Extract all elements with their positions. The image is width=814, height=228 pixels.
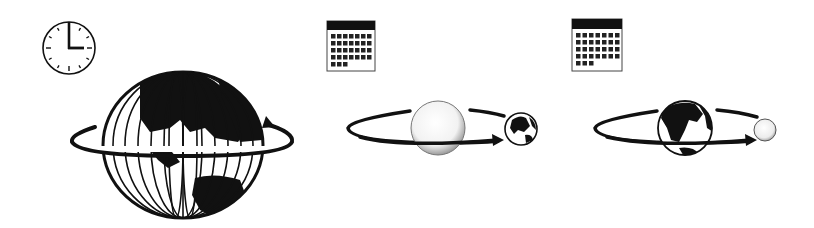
earth-globe-large — [100, 70, 266, 220]
moon-sphere — [754, 119, 776, 141]
panel-month-orbit — [565, 0, 814, 228]
panel-year-orbit — [320, 0, 565, 228]
calendar-icon — [327, 21, 375, 71]
sun-sphere — [411, 101, 465, 155]
earth-sun-orbit-diagram — [320, 0, 565, 228]
clock-icon — [43, 22, 95, 74]
moon-earth-orbit-diagram — [565, 0, 814, 228]
calendar-icon — [572, 19, 622, 71]
earth-globe-small — [505, 113, 537, 145]
earth-globe-medium — [658, 101, 713, 158]
earth-rotation-diagram — [0, 0, 320, 228]
panel-day-rotation — [0, 0, 320, 228]
